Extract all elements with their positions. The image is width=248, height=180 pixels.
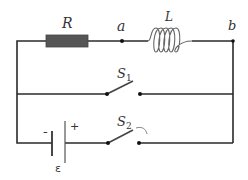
inductor-coil [148, 28, 192, 52]
resistor: R [46, 15, 88, 47]
resistor-body [46, 35, 88, 47]
inductor-label: L [164, 10, 173, 24]
switch-s2-blade [108, 130, 133, 143]
circuit-diagram: R a L b S1 [0, 0, 248, 180]
wire-inductor-to-b [192, 41, 233, 143]
battery-emf-label: ε [55, 162, 61, 175]
switch-s1: S1 [105, 66, 142, 96]
switch-s2-arrow-icon [136, 127, 147, 134]
switch-s1-label: S1 [117, 66, 132, 83]
inductor: L [148, 10, 192, 52]
switch-s1-label-main: S [117, 66, 126, 81]
battery-positive-sign: + [70, 120, 79, 133]
switch-s1-pivot [105, 92, 109, 96]
switch-s2-label-sub: 2 [126, 121, 132, 131]
resistor-label: R [61, 15, 73, 31]
switch-s2-label-main: S [117, 114, 126, 129]
switch-s2-label: S2 [117, 114, 132, 131]
battery-negative-sign: - [43, 124, 48, 139]
node-a-dot [120, 39, 124, 43]
switch-s2: S2 [106, 114, 147, 145]
switch-s1-label-sub: 1 [126, 73, 132, 83]
node-a-label: a [117, 18, 125, 34]
switch-s1-contact [138, 92, 142, 96]
node-b-label: b [228, 18, 236, 33]
node-a: a [117, 18, 125, 43]
switch-s2-contact [137, 141, 141, 145]
wire-top-left [17, 41, 46, 94]
node-b: b [228, 18, 236, 43]
node-b-dot [231, 39, 235, 43]
battery: - + ε [43, 120, 79, 175]
switch-s2-pivot [106, 141, 110, 145]
